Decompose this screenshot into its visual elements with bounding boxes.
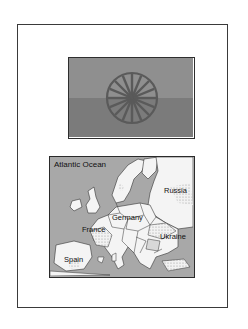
map-label-atlantic-ocean: Atlantic Ocean [54, 161, 106, 169]
map-label-germany: Germany [112, 214, 143, 222]
map-label-spain: Spain [64, 256, 83, 264]
map-label-ukraine: Ukraine [160, 233, 186, 241]
europe-map-image: Atlantic Ocean Russia Germany France Ukr… [49, 156, 195, 278]
map-label-russia: Russia [164, 187, 187, 195]
map-label-france: France [82, 226, 105, 234]
wheel-icon [69, 58, 193, 137]
romani-flag-image [68, 57, 195, 139]
